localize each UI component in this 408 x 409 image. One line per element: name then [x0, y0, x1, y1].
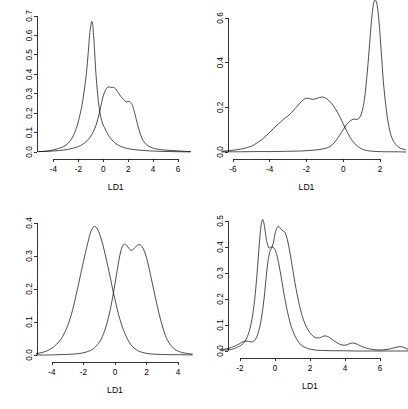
y-axis-tick-label: 0.5 [25, 49, 34, 61]
x-axis-title: LD1 [299, 182, 315, 192]
x-axis-tick-label: 0 [341, 165, 346, 174]
y-axis-tick-label: 0.4 [216, 241, 225, 253]
x-axis-tick-label: -2 [75, 165, 83, 174]
y-axis-tick-label: 0.6 [25, 29, 34, 41]
x-axis-tick-label: 4 [343, 364, 348, 373]
density-plot-figure: 0.00.10.20.30.40.50.60.7-4-20246LD1 0.00… [0, 0, 408, 409]
x-axis-title: LD1 [107, 385, 123, 395]
y-axis-tick-label: 0.4 [25, 68, 34, 80]
plot-canvas: 0.00.10.20.30.4-4-2024LD1 [0, 205, 204, 409]
x-axis-tick-label: 2 [126, 165, 131, 174]
x-axis-tick-label: 0 [101, 165, 106, 174]
density-curve [39, 21, 191, 151]
x-axis-tick-label: -4 [48, 368, 56, 377]
x-axis-tick-label: 2 [378, 165, 383, 174]
x-axis-tick-label: 2 [308, 364, 313, 373]
y-axis-tick-label: 0.2 [216, 293, 225, 305]
x-axis-tick-label: 0 [113, 368, 118, 377]
x-axis-tick-label: 2 [144, 368, 149, 377]
density-curve [222, 97, 406, 152]
y-axis-tick-label: 0.1 [216, 319, 225, 331]
y-axis-tick-label: 0.3 [216, 267, 225, 279]
y-axis-tick-label: 0.2 [216, 101, 225, 113]
density-curve [221, 219, 408, 351]
y-axis-tick-label: 0.0 [25, 349, 34, 361]
x-axis-tick-label: 0 [273, 364, 278, 373]
x-axis-tick-label: -2 [236, 364, 244, 373]
panel-top-left: 0.00.10.20.30.40.50.60.7-4-20246LD1 [0, 0, 204, 204]
x-axis-tick-label: -2 [303, 165, 311, 174]
plot-canvas: 0.00.20.40.6-6-4-202LD1 [204, 0, 408, 204]
y-axis-tick-label: 0.1 [25, 126, 34, 138]
x-axis-tick-label: 6 [378, 364, 383, 373]
y-axis-tick-label: 0.6 [216, 12, 225, 24]
x-axis-title: LD1 [302, 381, 318, 391]
x-axis-title: LD1 [108, 182, 124, 192]
density-curve [39, 87, 191, 152]
y-axis-tick-label: 0.5 [216, 215, 225, 227]
plot-canvas: 0.00.10.20.30.40.50.60.7-4-20246LD1 [0, 0, 204, 204]
y-axis-tick-label: 0.2 [25, 107, 34, 119]
panel-bottom-right: 0.00.10.20.30.40.5-20246LD1 [204, 205, 408, 409]
y-axis-tick-label: 0.2 [25, 283, 34, 295]
y-axis-tick-label: 0.7 [25, 10, 34, 22]
x-axis-tick-label: -6 [229, 165, 237, 174]
panel-top-right: 0.00.20.40.6-6-4-202LD1 [204, 0, 408, 204]
density-curve [222, 0, 406, 152]
y-axis-tick-label: 0.4 [216, 57, 225, 69]
x-axis-tick-label: -4 [50, 165, 58, 174]
y-axis-tick-label: 0.0 [216, 345, 225, 357]
x-axis-tick-label: 4 [151, 165, 156, 174]
panel-bottom-left: 0.00.10.20.30.4-4-2024LD1 [0, 205, 204, 409]
y-axis-tick-label: 0.4 [25, 217, 34, 229]
y-axis-tick-label: 0.3 [25, 250, 34, 262]
y-axis-tick-label: 0.1 [25, 316, 34, 328]
x-axis-tick-label: 6 [176, 165, 181, 174]
y-axis-tick-label: 0.0 [25, 146, 34, 158]
y-axis-tick-label: 0.3 [25, 88, 34, 100]
x-axis-tick-label: -2 [80, 368, 88, 377]
density-curve [36, 226, 192, 355]
density-curve [36, 244, 192, 355]
x-axis-tick-label: 4 [176, 368, 181, 377]
plot-canvas: 0.00.10.20.30.40.5-20246LD1 [204, 205, 408, 409]
x-axis-tick-label: -4 [266, 165, 274, 174]
